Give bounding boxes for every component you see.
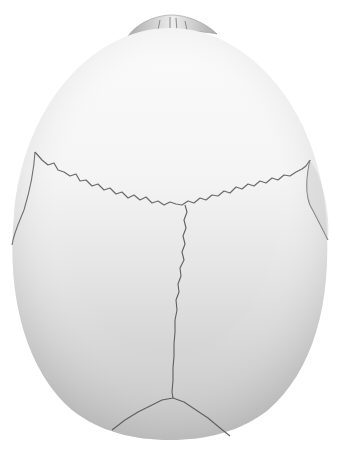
skull-svg [0,0,341,451]
skull-illustration: Skull, superior view (illustration) [0,0,341,451]
skull-shading [12,28,327,440]
